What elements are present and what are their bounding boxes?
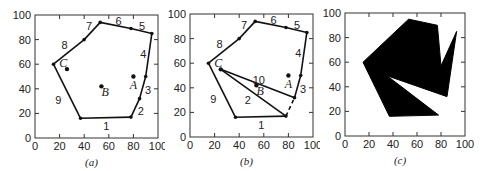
y-tick-label: 0: [335, 130, 341, 142]
x-tick-label: 80: [282, 139, 294, 151]
y-tick-label: 40: [174, 82, 186, 94]
x-tick-label: 60: [258, 139, 270, 151]
vertex: [299, 74, 303, 78]
vertex: [284, 26, 288, 30]
plot-c: 020406080100020406080100(c): [310, 0, 487, 171]
vertex: [207, 61, 211, 65]
edge-label: 6: [116, 15, 122, 27]
y-tick-label: 20: [19, 107, 31, 119]
polygon-edge: [301, 32, 307, 75]
point-label: C: [59, 56, 68, 70]
x-tick-label: 0: [32, 140, 38, 152]
x-tick-label: 20: [363, 138, 375, 150]
y-tick-label: 100: [168, 8, 186, 20]
x-tick-label: 80: [127, 140, 139, 152]
polygon-edge: [208, 39, 239, 64]
edge-label: 8: [61, 39, 67, 51]
point-label: A: [129, 78, 138, 92]
x-tick-label: 60: [103, 140, 115, 152]
point-label: C: [214, 56, 223, 70]
edge-label: 3: [300, 83, 306, 95]
vertex: [305, 31, 309, 35]
plot-b: 020406080100020406080100(b)12345678910AB…: [155, 0, 320, 171]
vertex: [82, 38, 86, 42]
edge-label: 4: [140, 48, 146, 60]
panel-caption: (b): [240, 155, 253, 168]
vertex: [234, 116, 238, 120]
x-tick-label: 40: [233, 139, 245, 151]
edge-label: 3: [145, 84, 151, 96]
vertex: [237, 37, 241, 41]
y-tick-label: 20: [174, 106, 186, 118]
y-tick-label: 100: [323, 7, 341, 19]
vertex: [150, 32, 154, 36]
x-tick-label: 60: [411, 138, 423, 150]
edge-label: 8: [216, 38, 222, 50]
edge-label: 5: [294, 19, 300, 31]
edge-label: 7: [86, 20, 92, 32]
filled-region: [363, 19, 457, 116]
polygon-edge: [146, 33, 152, 76]
vertex: [98, 21, 102, 25]
edge-label: 7: [241, 19, 247, 31]
y-tick-label: 0: [180, 131, 186, 143]
y-tick-label: 60: [19, 58, 31, 70]
y-tick-label: 0: [25, 132, 31, 144]
y-tick-label: 100: [13, 9, 31, 21]
edge-label: 2: [245, 94, 251, 106]
polygon-edge: [236, 116, 286, 117]
y-tick-label: 80: [174, 33, 186, 45]
edge-label: 2: [138, 105, 144, 117]
edge-label: 1: [258, 119, 264, 131]
edge-label: 9: [210, 93, 216, 105]
x-tick-label: 40: [387, 138, 399, 150]
x-tick-label: 20: [208, 139, 220, 151]
y-tick-label: 80: [19, 34, 31, 46]
vertex: [52, 62, 56, 66]
vertex: [138, 97, 142, 101]
polygon-edge: [208, 63, 235, 117]
y-tick-label: 60: [329, 56, 341, 68]
plot-a: 020406080100020406080100(a)123456789ABC: [0, 0, 165, 171]
x-tick-label: 40: [78, 140, 90, 152]
vertex: [129, 27, 133, 31]
dashed-edge: [286, 98, 295, 116]
axes-frame: [190, 14, 313, 137]
x-tick-label: 0: [342, 138, 348, 150]
vertex: [253, 20, 257, 24]
vertex: [129, 115, 133, 119]
edge-label: 5: [139, 20, 145, 32]
axes-frame: [35, 15, 158, 138]
x-tick-label: 100: [456, 138, 474, 150]
x-tick-label: 80: [435, 138, 447, 150]
polygon-edge: [53, 40, 84, 65]
panel-caption: (c): [394, 154, 407, 167]
y-tick-label: 40: [19, 83, 31, 95]
y-tick-label: 40: [329, 81, 341, 93]
polygon-edge: [53, 64, 80, 118]
edge-label: 9: [55, 94, 61, 106]
vertex: [79, 117, 83, 121]
vertex: [144, 75, 148, 79]
y-tick-label: 60: [174, 57, 186, 69]
point-label: B: [256, 84, 264, 98]
edge-label: 1: [103, 120, 109, 132]
polygon-edge: [81, 117, 131, 118]
x-tick-label: 0: [187, 139, 193, 151]
edge-label: 4: [295, 47, 301, 59]
panel-caption: (a): [85, 156, 98, 169]
panel-b: 020406080100020406080100(b)12345678910AB…: [155, 0, 320, 171]
y-tick-label: 80: [329, 32, 341, 44]
x-tick-label: 20: [53, 140, 65, 152]
y-tick-label: 20: [329, 105, 341, 117]
panel-c: 020406080100020406080100(c): [310, 0, 475, 171]
point-label: A: [284, 77, 293, 91]
point-label: B: [101, 85, 109, 99]
panel-a: 020406080100020406080100(a)123456789ABC: [0, 0, 165, 171]
edge-label: 6: [271, 14, 277, 26]
